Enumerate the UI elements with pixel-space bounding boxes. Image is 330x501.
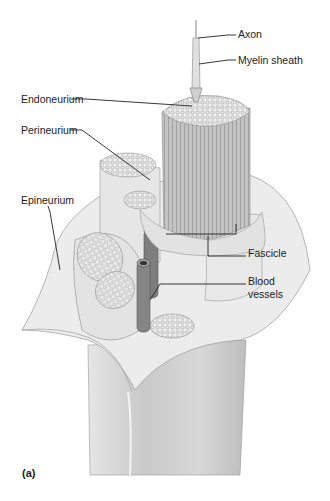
label-epineurium: Epineurium bbox=[21, 194, 74, 206]
label-myelin-sheath: Myelin sheath bbox=[238, 54, 303, 66]
label-endoneurium: Endoneurium bbox=[21, 93, 83, 105]
label-fascicle: Fascicle bbox=[248, 247, 287, 259]
label-blood-vessels-line1: Blood bbox=[248, 275, 275, 287]
label-axon: Axon bbox=[238, 28, 262, 40]
label-perineurium: Perineurium bbox=[21, 124, 78, 136]
nerve-diagram: Axon Myelin sheath Endoneurium Perineuri… bbox=[0, 0, 330, 501]
label-blood-vessels-line2: vessels bbox=[248, 288, 283, 300]
panel-label: (a) bbox=[22, 467, 35, 479]
